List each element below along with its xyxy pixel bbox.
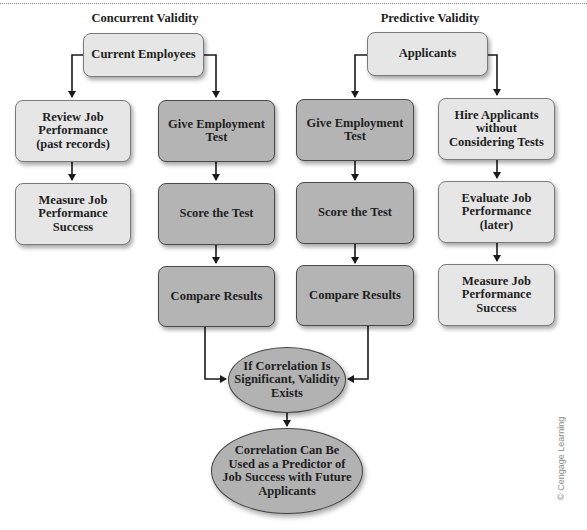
predictive-validity-title: Predictive Validity bbox=[370, 11, 490, 26]
compare-results-box-concurrent: Compare Results bbox=[158, 266, 275, 327]
give-employment-test-box-concurrent: Give Employment Test bbox=[158, 100, 275, 162]
score-the-test-box-predictive: Score the Test bbox=[296, 182, 414, 244]
correlation-significant-oval: If Correlation Is Significant, Validity … bbox=[228, 347, 346, 413]
compare-results-box-predictive: Compare Results bbox=[296, 265, 414, 326]
score-the-test-box-concurrent: Score the Test bbox=[158, 183, 275, 245]
hire-applicants-box: Hire Applicants without Considering Test… bbox=[438, 98, 555, 160]
top-dotted-rule bbox=[0, 3, 587, 4]
give-employment-test-box-predictive: Give Employment Test bbox=[296, 99, 414, 161]
measure-job-performance-box-concurrent: Measure Job Performance Success bbox=[15, 183, 131, 245]
applicants-box: Applicants bbox=[367, 32, 488, 76]
review-job-performance-box: Review Job Performance (past records) bbox=[15, 100, 131, 162]
current-employees-box: Current Employees bbox=[83, 33, 204, 77]
correlation-predictor-oval: Correlation Can Be Used as a Predictor o… bbox=[211, 428, 363, 514]
concurrent-validity-title: Concurrent Validity bbox=[85, 11, 205, 26]
evaluate-job-performance-box: Evaluate Job Performance (later) bbox=[438, 181, 555, 243]
measure-job-performance-box-predictive: Measure Job Performance Success bbox=[438, 264, 555, 326]
copyright-credit: © Cengage Learning bbox=[556, 417, 566, 500]
